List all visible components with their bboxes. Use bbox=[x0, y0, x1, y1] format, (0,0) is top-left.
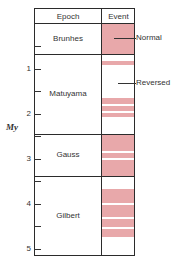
axis-tick-label: 3 bbox=[22, 154, 31, 163]
axis-tick bbox=[34, 46, 41, 47]
axis-tick-label: 5 bbox=[22, 244, 31, 253]
axis-unit-label: My bbox=[6, 122, 18, 132]
axis-tick-label: 2 bbox=[22, 109, 31, 118]
normal-polarity-stripe bbox=[102, 106, 134, 111]
epoch-boundary bbox=[34, 176, 135, 177]
normal-polarity-stripe bbox=[102, 24, 134, 54]
axis-tick-label: 1 bbox=[22, 64, 31, 73]
axis-tick bbox=[34, 91, 41, 92]
epoch-column-header: Epoch bbox=[35, 9, 102, 24]
axis-tick bbox=[34, 249, 41, 250]
reversed-pointer-line bbox=[118, 83, 136, 84]
epoch-label: Brunhes bbox=[35, 34, 101, 43]
normal-polarity-stripe bbox=[102, 153, 134, 158]
axis-tick bbox=[34, 181, 41, 182]
reversed-label: Reversed bbox=[136, 78, 170, 87]
normal-polarity-stripe bbox=[102, 160, 134, 176]
axis-tick bbox=[34, 159, 41, 160]
epoch-label: Gauss bbox=[35, 150, 101, 159]
axis-tick bbox=[34, 69, 41, 70]
epoch-label: Gilbert bbox=[35, 211, 101, 220]
epoch-boundary bbox=[34, 134, 135, 135]
axis-tick bbox=[34, 204, 41, 205]
axis-tick bbox=[34, 114, 41, 115]
normal-label: Normal bbox=[136, 33, 162, 42]
normal-polarity-stripe bbox=[102, 219, 134, 227]
normal-polarity-stripe bbox=[102, 98, 134, 104]
axis-tick bbox=[34, 226, 41, 227]
normal-polarity-stripe bbox=[102, 113, 134, 117]
normal-pointer-line bbox=[114, 38, 136, 39]
normal-polarity-stripe bbox=[102, 205, 134, 217]
normal-polarity-stripe bbox=[102, 134, 134, 151]
normal-polarity-stripe bbox=[102, 189, 134, 203]
event-column-header: Event bbox=[102, 9, 135, 24]
epoch-boundary bbox=[34, 54, 135, 55]
normal-polarity-stripe bbox=[102, 229, 134, 237]
epoch-label: Matuyama bbox=[35, 89, 101, 98]
axis-tick-label: 4 bbox=[22, 199, 31, 208]
axis-tick bbox=[34, 136, 41, 137]
normal-polarity-stripe bbox=[102, 61, 134, 65]
